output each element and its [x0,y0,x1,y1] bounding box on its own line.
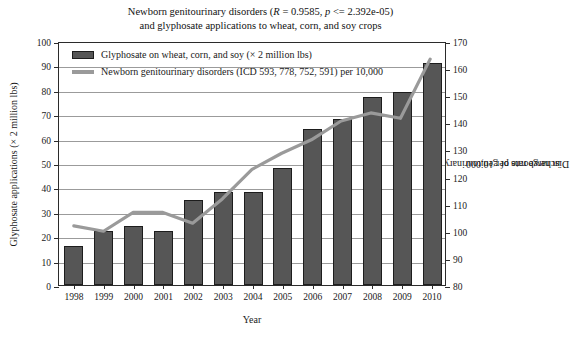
y-axis-right-tick-label: 160 [453,65,483,75]
y-axis-right-tick [445,287,450,288]
x-axis-tick [432,285,433,289]
legend-label-glyphosate: Glyphosate on wheat, corn, and soy (× 2 … [101,49,312,60]
y-axis-right-tick-label: 90 [453,255,483,265]
y-axis-left-tick-label: 50 [21,160,51,170]
legend-item-disorders: Newborn genitourinary disorders (ICD 593… [72,63,383,80]
title-text-mid: = 0.9585, [280,6,325,17]
y-axis-left-tick-label: 100 [21,38,51,48]
x-axis-tick-label: 2000 [124,292,143,302]
y-axis-right-title: Discharge rate of genitourinary disorder… [484,42,516,286]
x-axis-tick-label: 2007 [333,292,352,302]
x-axis-tick [283,285,284,289]
legend-label-disorders: Newborn genitourinary disorders (ICD 593… [101,66,383,77]
line-swatch-icon [72,70,94,74]
y-axis-left-tick-label: 40 [21,184,51,194]
y-axis-right-tick [445,43,450,44]
x-axis-tick [402,285,403,289]
x-axis-tick-label: 2002 [184,292,203,302]
y-axis-right-tick [445,70,450,71]
title-text-pre: Newborn genitourinary disorders ( [128,6,274,17]
x-axis-tick [104,285,105,289]
y-axis-left-tick [54,287,59,288]
chart-legend: Glyphosate on wheat, corn, and soy (× 2 … [72,46,383,80]
y-axis-right-tick-label: 150 [453,92,483,102]
y-axis-right-tick [445,260,450,261]
y-axis-left-tick-label: 60 [21,136,51,146]
chart-title: Newborn genitourinary disorders (R = 0.9… [0,5,521,33]
y-axis-left-tick-label: 0 [21,282,51,292]
x-axis-tick [253,285,254,289]
y-axis-left-title: Glyphosate applications (× 2 million lbs… [6,42,20,286]
y-axis-right-tick [445,206,450,207]
x-axis-title: Year [58,314,446,325]
y-axis-right-title-line-2: in newborns per 10,000 [431,158,574,171]
x-axis-tick [193,285,194,289]
x-axis-tick-label: 2001 [154,292,173,302]
y-axis-right-tick-label: 100 [453,228,483,238]
x-axis-tick-label: 2009 [393,292,412,302]
y-axis-left-tick-label: 10 [21,258,51,268]
x-axis-tick-label: 1999 [94,292,113,302]
y-axis-left-tick-label: 80 [21,87,51,97]
legend-item-glyphosate: Glyphosate on wheat, corn, and soy (× 2 … [72,46,383,63]
x-axis-tick-label: 2006 [303,292,322,302]
x-axis-tick [372,285,373,289]
x-axis-tick-label: 1998 [64,292,83,302]
y-axis-left-tick-label: 90 [21,62,51,72]
y-axis-right-tick-label: 80 [453,282,483,292]
y-axis-right-tick-label: 140 [453,119,483,129]
x-axis-tick [134,285,135,289]
x-axis-tick-label: 2003 [214,292,233,302]
x-axis-tick-label: 2004 [244,292,263,302]
y-axis-left-tick-label: 30 [21,209,51,219]
x-axis-tick-label: 2010 [423,292,442,302]
x-axis-tick [313,285,314,289]
x-axis-tick-label: 2008 [363,292,382,302]
y-axis-right-tick-label: 170 [453,38,483,48]
bar-swatch-icon [72,51,94,59]
y-axis-right-title-text: Discharge rate of genitourinary disorder… [481,82,520,246]
y-axis-right-tick [445,151,450,152]
y-axis-left-title-text: Glyphosate applications (× 2 million lbs… [8,82,19,246]
x-axis-tick [74,285,75,289]
x-axis-tick [163,285,164,289]
y-axis-right-tick [445,233,450,234]
y-axis-right-tick [445,179,450,180]
y-axis-right-tick-label: 120 [453,174,483,184]
x-axis-tick [343,285,344,289]
y-axis-left-tick-label: 20 [21,233,51,243]
y-axis-right-tick-label: 110 [453,201,483,211]
x-axis-tick-label: 2005 [273,292,292,302]
chart-title-line-1: Newborn genitourinary disorders (R = 0.9… [0,5,521,19]
chart-title-line-2: and glyphosate applications to wheat, co… [0,19,521,33]
x-axis-tick [223,285,224,289]
y-axis-left-tick-label: 70 [21,111,51,121]
title-text-post: <= 2.392e-05) [330,6,393,17]
y-axis-right-tick [445,97,450,98]
y-axis-right-tick-label: 130 [453,146,483,156]
y-axis-right-tick [445,124,450,125]
